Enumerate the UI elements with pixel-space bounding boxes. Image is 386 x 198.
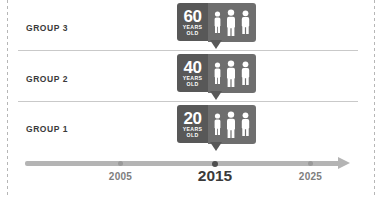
age-badge-group-3: 60 YEARS OLD [177,3,256,41]
people-icon-panel [208,3,256,42]
person-large-icon [225,111,237,138]
timeline-arrow-icon [338,157,350,169]
age-badge-text-panel: 20 YEARS OLD [177,105,208,143]
timeline-year-2025: 2025 [299,171,322,182]
person-large-icon [225,9,237,36]
people-icon-panel [208,54,256,93]
age-value: 20 [184,111,202,126]
age-badge-group-1: 20 YEARS OLD [177,105,256,143]
age-badge-group-2: 40 YEARS OLD [177,54,256,92]
timeline-tick-2015 [212,161,218,167]
page-cut-line-right [374,0,375,198]
group-label-2: GROUP 2 [26,74,68,84]
person-large-icon [225,60,237,87]
age-unit-old: OLD [187,132,199,138]
row-divider-upper [18,50,358,51]
group-label-1: GROUP 1 [26,124,68,134]
timeline-tick-2025 [308,161,313,166]
timeline-infographic: GROUP 3 60 YEARS OLD [0,0,386,198]
timeline-tick-2005 [118,161,123,166]
person-small-icon [213,11,222,33]
group-label-3: GROUP 3 [26,23,68,33]
age-badge-text-panel: 60 YEARS OLD [177,3,208,41]
row-divider-lower [18,101,358,102]
person-medium-icon [240,112,251,136]
timeline-axis [25,161,340,166]
age-unit-old: OLD [187,81,199,87]
badge-pointer-icon [210,91,222,100]
people-icon-panel [208,105,256,144]
timeline-year-2005: 2005 [109,171,132,182]
person-small-icon [213,62,222,84]
age-value: 40 [184,60,202,75]
page-cut-line-left [7,0,8,198]
badge-pointer-icon [210,40,222,49]
age-unit-old: OLD [187,30,199,36]
age-badge-text-panel: 40 YEARS OLD [177,54,208,92]
timeline-year-2015: 2015 [198,167,232,185]
badge-pointer-icon [210,142,222,151]
person-small-icon [213,113,222,135]
person-medium-icon [240,10,251,34]
person-medium-icon [240,61,251,85]
age-value: 60 [184,9,202,24]
